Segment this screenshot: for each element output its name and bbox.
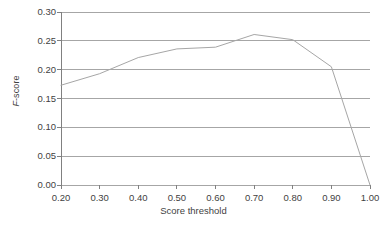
x-tick-label: 0.70 [234,192,274,203]
x-tick-label: 0.90 [311,192,351,203]
x-axis-title: Score threshold [0,205,387,216]
x-tick-label: 0.60 [196,192,236,203]
x-tick-label: 0.40 [118,192,158,203]
x-tick-label: 0.30 [80,192,120,203]
x-tick-label: 1.00 [350,192,387,203]
x-axis-tick-labels: 0.200.300.400.500.600.700.800.901.00 [0,0,387,235]
x-tick-label: 0.50 [157,192,197,203]
chart-container: 0.000.050.100.150.200.250.30 F-score 0.2… [0,0,387,235]
x-tick-label: 0.80 [273,192,313,203]
x-tick-label: 0.20 [41,192,81,203]
